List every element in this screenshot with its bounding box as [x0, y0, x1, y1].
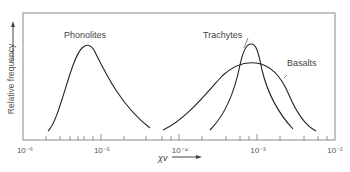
basalts-curve — [163, 63, 316, 131]
chart: Phonolites Trachytes Basalts Relative fr… — [0, 0, 350, 172]
x-axis-label: χv — [158, 153, 167, 163]
phonolites-label: Phonolites — [64, 30, 106, 40]
x-arrow-head-icon — [196, 155, 202, 159]
x-tick-label: 10⁻⁴ — [172, 146, 188, 155]
y-arrow-head-icon — [11, 21, 15, 27]
basalts-label: Basalts — [287, 58, 317, 68]
x-ticks — [46, 134, 327, 140]
x-tick-label: 10⁻³ — [250, 146, 266, 155]
trachytes-leader — [244, 38, 248, 48]
x-tick-label: 10⁻² — [327, 146, 343, 155]
phonolites-curve — [48, 45, 150, 131]
x-tick-label: 10⁻⁶ — [17, 146, 33, 155]
basalts-leader — [284, 75, 287, 78]
trachytes-curve — [210, 44, 293, 130]
x-tick-label: 10⁻⁵ — [94, 146, 110, 155]
trachytes-label: Trachytes — [203, 30, 242, 40]
y-axis-label: Relative frequency — [6, 34, 16, 124]
